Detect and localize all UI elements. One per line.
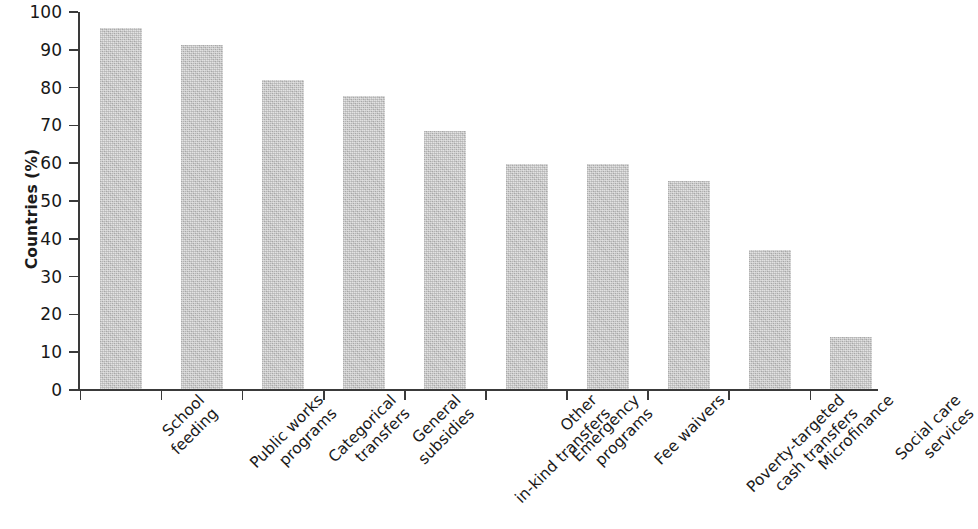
bar [749,250,791,389]
x-axis-category-label: Public worksprograms [246,391,341,486]
y-axis-tick: 0 [69,389,78,391]
y-axis-tick: 70 [69,125,78,127]
x-axis-category-label: Social careservices [892,391,978,477]
x-axis-category-label: Generalsubsidies [401,391,479,469]
bar [668,181,710,389]
y-axis-tick-label: 0 [51,381,62,398]
y-axis-tick: 10 [69,351,78,353]
bar [506,164,548,389]
plot-area: 0102030405060708090100 [78,12,878,390]
y-axis-tick-label: 90 [40,41,62,58]
x-axis-category-label: Categoricaltransfers [325,391,414,480]
x-axis-category-label: Fee waivers [650,391,728,469]
bar [181,45,223,389]
bar [100,28,142,389]
y-axis-title: Countries (%) [23,129,41,289]
y-axis-tick-label: 50 [40,192,62,209]
bar [830,337,872,389]
y-axis-tick-label: 40 [40,230,62,247]
y-axis-tick-label: 20 [40,306,62,323]
y-axis-tick-label: 10 [40,344,62,361]
bar [343,96,385,389]
y-axis-tick: 100 [69,11,78,13]
y-axis-tick-label: 60 [40,155,62,172]
x-axis-category-label: Schoolfeeding [154,391,222,459]
y-axis-tick: 30 [69,276,78,278]
bar [424,131,466,389]
y-axis-tick-label: 70 [40,117,62,134]
bar [262,80,304,389]
y-axis-tick-label: 30 [40,268,62,285]
y-axis-tick: 40 [69,238,78,240]
x-axis-category-label-line1: Fee waivers [650,391,728,469]
x-axis-category-labels: SchoolfeedingPublic worksprogramsCategor… [78,391,883,529]
y-axis-tick: 20 [69,314,78,316]
y-axis-tick: 90 [69,49,78,51]
y-axis-tick: 50 [69,200,78,202]
bar [587,164,629,389]
y-axis-line [78,12,80,390]
y-axis-tick: 60 [69,162,78,164]
y-axis-tick-label: 100 [30,4,62,21]
y-axis-tick: 80 [69,87,78,89]
y-axis-tick-label: 80 [40,79,62,96]
